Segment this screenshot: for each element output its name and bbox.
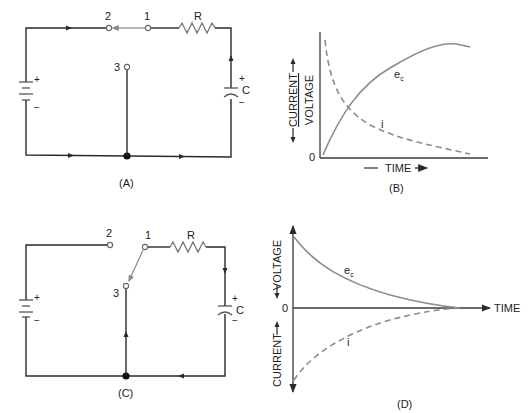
switch-terminal-2 [107,242,112,247]
capacitor-icon [218,306,232,315]
resistor-icon [179,23,215,33]
battery-plus-label: + [34,74,40,85]
switch-terminal-2 [106,25,111,30]
current-arrow-icon [68,153,74,158]
y-axis-label-voltage: VOLTAGE [303,75,315,125]
resistor-label: R [194,10,202,22]
current-arrow-icon [178,374,184,379]
current-arrow-icon [223,268,228,274]
caption-b: (B) [389,182,404,194]
current-arrow-icon [179,154,185,159]
resistor-icon [170,242,206,252]
switch-terminal-1 [145,25,150,30]
battery-plus-label: + [34,292,40,303]
i-label: i [381,118,383,130]
voltage-curve-ec [323,44,470,155]
origin-label: 0 [282,302,288,314]
switch-terminal-1 [142,244,147,249]
y-axis-label-current: CURRENT [287,73,299,127]
terminal-2-label: 2 [106,227,112,239]
current-arrow-icon [229,55,234,61]
capacitor-label: C [242,84,250,96]
current-arrow-icon [124,331,129,337]
terminal-1-label: 1 [145,229,151,241]
resistor-label: R [187,229,195,241]
x-axis-label: TIME [494,302,520,314]
capacitor-icon [224,88,238,97]
up-arrow-icon [291,58,296,64]
capacitor-minus-label: − [239,97,245,108]
current-curve-i [294,308,460,380]
battery-icon [19,82,33,100]
caption-c: (C) [118,387,133,399]
graph-b: 0 CURRENT VOLTAGE ec i TIME (B) [287,32,488,194]
wire [206,247,225,306]
wire [215,28,231,88]
capacitor-minus-label: − [232,315,238,326]
caption-d: (D) [397,398,412,410]
circuit-a: + − 3 2 1 R + C − (A) [19,10,250,189]
ec-label: ec [394,68,404,82]
battery-icon [19,300,33,317]
down-arrow-icon [275,293,280,299]
up-arrow-icon [275,321,280,327]
i-label: i [347,336,349,348]
circuit-c: 2 + − 3 1 R + C − (C) [19,227,244,399]
x-axis-label: TIME [385,162,411,174]
terminal-1-label: 1 [144,10,150,22]
voltage-curve-ec [294,237,460,308]
current-curve-i [325,40,470,154]
graph-d: TIME 0 VOLTAGE CURRENT ec i (D) [271,226,520,410]
wire [26,99,231,157]
y-axis-label-current: CURRENT [271,333,283,387]
switch-arm [129,250,143,281]
battery-minus-label: − [34,102,40,113]
switch-terminal-3 [123,283,128,288]
terminal-3-label: 3 [114,61,120,73]
y-axis-label-voltage: VOLTAGE [271,240,283,290]
capacitor-plus-label: + [232,293,238,304]
ec-label: ec [344,264,354,278]
caption-a: (A) [119,177,134,189]
current-arrow-icon [66,26,72,31]
battery-minus-label: − [34,315,40,326]
origin-label: 0 [309,151,315,163]
capacitor-plus-label: + [239,73,245,84]
terminal-2-label: 2 [105,10,111,22]
down-arrow-icon [291,137,296,143]
switch-terminal-3 [124,64,129,69]
terminal-3-label: 3 [113,287,119,299]
